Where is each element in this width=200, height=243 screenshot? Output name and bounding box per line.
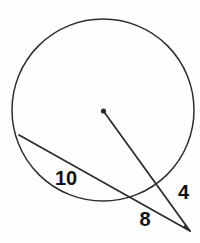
secant-line	[19, 135, 190, 231]
geometry-figure: 10 8 4	[0, 0, 200, 243]
diagram-svg: 10 8 4	[0, 0, 200, 243]
center-line-external-length-label: 4	[178, 181, 190, 203]
secant-external-length-label: 8	[139, 208, 150, 230]
chord-length-label: 10	[55, 167, 77, 189]
